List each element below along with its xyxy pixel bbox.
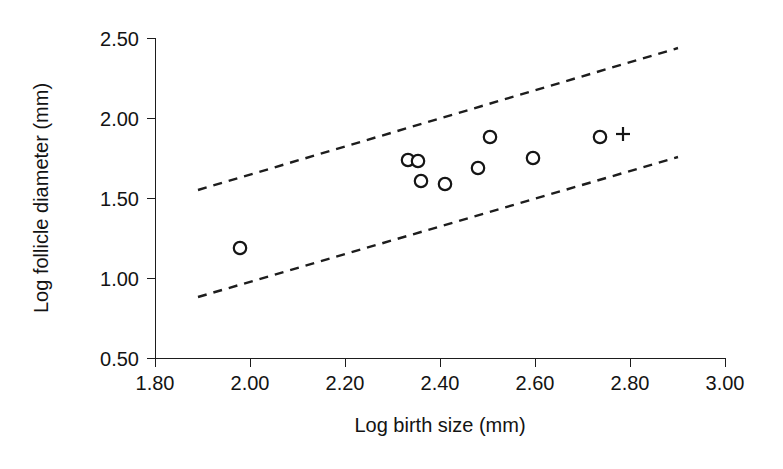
x-tick-label-2-80: 2.80 bbox=[611, 372, 650, 394]
data-points-open-circle bbox=[234, 131, 606, 254]
x-tick-label-3-00: 3.00 bbox=[706, 372, 745, 394]
data-points-plus bbox=[616, 127, 630, 141]
data-point bbox=[415, 175, 427, 187]
x-tick-label-2-40: 2.40 bbox=[421, 372, 460, 394]
x-tick-label-1-80: 1.80 bbox=[136, 372, 175, 394]
data-point bbox=[472, 162, 484, 174]
scatter-plot: 2.50 2.00 1.50 1.00 0.50 1.80 2.00 2.20 … bbox=[0, 0, 783, 469]
data-point bbox=[234, 242, 246, 254]
y-tick-label-0-50: 0.50 bbox=[100, 348, 139, 370]
x-tick-label-2-00: 2.00 bbox=[231, 372, 270, 394]
x-axis-tick-labels: 1.80 2.00 2.20 2.40 2.60 2.80 3.00 bbox=[136, 372, 745, 394]
data-point bbox=[439, 178, 451, 190]
axes-group bbox=[155, 38, 725, 359]
chart-figure: 2.50 2.00 1.50 1.00 0.50 1.80 2.00 2.20 … bbox=[0, 0, 783, 469]
y-axis-title: Log follicle diameter (mm) bbox=[30, 83, 52, 313]
x-tick-label-2-20: 2.20 bbox=[326, 372, 365, 394]
x-axis-title: Log birth size (mm) bbox=[354, 414, 525, 436]
lower-confidence-band bbox=[198, 157, 678, 297]
data-point bbox=[484, 131, 496, 143]
y-tick-label-2-50: 2.50 bbox=[100, 28, 139, 50]
y-tick-label-1-00: 1.00 bbox=[100, 268, 139, 290]
data-point-plus-marker bbox=[616, 127, 630, 141]
x-tick-label-2-60: 2.60 bbox=[516, 372, 555, 394]
y-tick-label-1-50: 1.50 bbox=[100, 188, 139, 210]
confidence-bands bbox=[198, 48, 678, 297]
upper-confidence-band bbox=[198, 48, 678, 190]
y-axis-ticks bbox=[147, 39, 155, 359]
data-point bbox=[412, 155, 424, 167]
data-point bbox=[527, 152, 539, 164]
y-tick-label-2-00: 2.00 bbox=[100, 108, 139, 130]
data-point bbox=[594, 131, 606, 143]
y-axis-tick-labels: 2.50 2.00 1.50 1.00 0.50 bbox=[100, 28, 139, 370]
